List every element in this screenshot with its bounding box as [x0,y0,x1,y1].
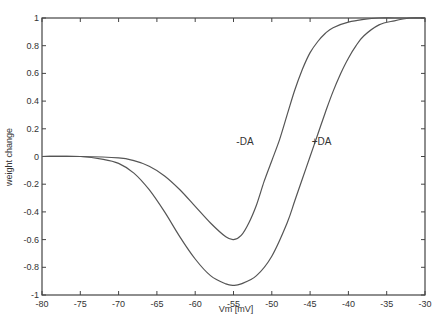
annotation-label: +DA [312,136,332,147]
y-tick-label: 1 [34,13,39,23]
series-line-plusminus-da [42,18,425,286]
y-tick-label: 0.4 [26,96,39,106]
annotation-label: -DA [236,136,254,147]
y-tick-label: 0 [34,152,39,162]
x-tick-label: -40 [342,299,355,309]
curves [42,18,425,286]
x-tick-label: -50 [265,299,278,309]
chart: -80-75-70-65-60-55-50-45-40-35-30-1-0.8-… [0,0,436,318]
x-tick-label: -80 [35,299,48,309]
x-tick-label: -30 [418,299,431,309]
y-tick-label: 0.2 [26,124,39,134]
y-tick-label: 0.6 [26,68,39,78]
x-tick-label: -60 [189,299,202,309]
x-tick-label: -65 [150,299,163,309]
y-axis-label: weight change [4,128,14,187]
x-tick-label: -70 [112,299,125,309]
x-tick-label: -75 [74,299,87,309]
y-tick-label: -0.4 [23,207,39,217]
y-tick-label: -1 [31,290,39,300]
tick-labels: -80-75-70-65-60-55-50-45-40-35-30-1-0.8-… [23,13,431,309]
x-tick-label: -45 [304,299,317,309]
y-tick-label: 0.8 [26,41,39,51]
series-line-minus-da [42,18,425,240]
annotations: -DA+DA [236,136,331,147]
y-tick-label: -0.2 [23,179,39,189]
x-axis-label: Vm [mV] [219,304,254,314]
y-tick-label: -0.8 [23,262,39,272]
y-tick-label: -0.6 [23,235,39,245]
x-tick-label: -35 [380,299,393,309]
